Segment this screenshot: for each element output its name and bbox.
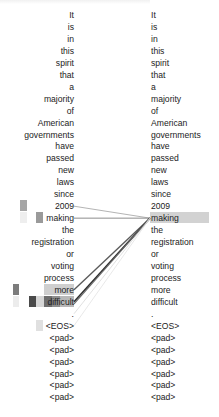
source-token: voting xyxy=(51,260,74,272)
source-token: have xyxy=(55,140,74,152)
attention-link xyxy=(74,218,150,304)
source-token: <pad> xyxy=(50,391,74,403)
attention-link xyxy=(74,206,150,218)
target-token: 2009 xyxy=(151,200,170,212)
target-token: have xyxy=(151,140,170,152)
attention-link xyxy=(74,218,150,290)
target-token: <pad> xyxy=(151,368,175,380)
target-token: since xyxy=(151,188,171,200)
source-token: American xyxy=(38,117,74,129)
target-token: <pad> xyxy=(151,356,175,368)
target-token: that xyxy=(151,69,165,81)
source-token: It xyxy=(69,9,74,21)
attention-lines xyxy=(0,0,219,417)
target-token: voting xyxy=(151,260,174,272)
source-token: more xyxy=(54,284,74,296)
target-token: the xyxy=(151,224,163,236)
target-token: this xyxy=(151,45,164,57)
target-token: making xyxy=(151,212,179,224)
target-token: laws xyxy=(151,176,168,188)
target-token: process xyxy=(151,272,181,284)
source-token: process xyxy=(44,272,74,284)
source-token: laws xyxy=(57,176,74,188)
target-token: majority xyxy=(151,93,181,105)
target-token: <pad> xyxy=(151,344,175,356)
source-token: 2009 xyxy=(55,200,74,212)
source-token: difficult xyxy=(47,296,74,308)
source-token: in xyxy=(67,33,74,45)
source-token: <EOS> xyxy=(46,320,74,332)
source-token: making xyxy=(46,212,74,224)
source-token: of xyxy=(67,105,74,117)
target-token: difficult xyxy=(151,296,178,308)
source-token: a xyxy=(69,81,74,93)
target-token: or xyxy=(151,248,159,260)
source-token: that xyxy=(60,69,74,81)
target-token: a xyxy=(151,81,156,93)
source-token: passed xyxy=(46,152,74,164)
source-token: new xyxy=(58,164,74,176)
target-token: <pad> xyxy=(151,391,175,403)
source-token: majority xyxy=(44,93,74,105)
attention-link xyxy=(74,218,150,314)
target-token: passed xyxy=(151,152,179,164)
source-token: the xyxy=(62,224,74,236)
target-token: in xyxy=(151,33,158,45)
source-token: <pad> xyxy=(50,379,74,391)
source-token: registration xyxy=(31,236,74,248)
source-token: is xyxy=(68,21,74,33)
target-token: spirit xyxy=(151,57,169,69)
source-token: this xyxy=(61,45,74,57)
target-token: <pad> xyxy=(151,379,175,391)
source-token: <pad> xyxy=(50,368,74,380)
target-token: American xyxy=(151,117,187,129)
source-token: or xyxy=(66,248,74,260)
source-token: spirit xyxy=(56,57,74,69)
target-token: . xyxy=(151,308,153,320)
attention-link xyxy=(74,218,150,326)
source-token: since xyxy=(54,188,74,200)
source-token: <pad> xyxy=(50,332,74,344)
target-token: <pad> xyxy=(151,332,175,344)
target-token: <EOS> xyxy=(151,320,179,332)
target-token: registration xyxy=(151,236,194,248)
source-token: . xyxy=(72,308,74,320)
target-token: new xyxy=(151,164,167,176)
source-token: governments xyxy=(24,129,74,141)
target-token: more xyxy=(151,284,171,296)
source-token: <pad> xyxy=(50,344,74,356)
target-token: of xyxy=(151,105,158,117)
target-token: is xyxy=(151,21,157,33)
target-token: It xyxy=(151,9,156,21)
source-token: <pad> xyxy=(50,356,74,368)
target-token: governments xyxy=(151,129,201,141)
